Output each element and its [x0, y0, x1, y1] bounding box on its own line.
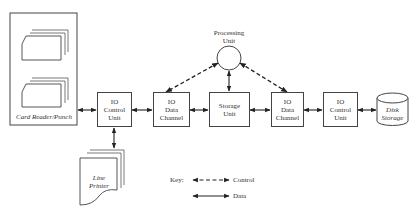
io-data-channel-2-label: IO: [284, 98, 291, 106]
card-reader-icon: [10, 13, 77, 125]
legend-control-label: Control: [233, 176, 273, 184]
disk-storage-label-line2: Storage: [377, 114, 408, 122]
io-control-unit-2-label: Unit: [334, 114, 346, 122]
io-data-channel-1-label: Data: [165, 106, 178, 114]
disk-storage-label: Disk Storage: [377, 106, 408, 122]
io-data-channel-2-label: Channel: [276, 114, 299, 122]
line-printer-label: Line Printer: [82, 174, 116, 190]
io-control-unit-2: IO Control Unit: [323, 92, 358, 127]
processing-unit-circle: [217, 46, 241, 70]
processing-unit-label-line2: Unit: [204, 37, 254, 45]
io-data-channel-2-label: Data: [281, 106, 294, 114]
storage-unit-label: Storage: [219, 102, 240, 110]
io-control-unit-1: IO Control Unit: [97, 92, 132, 127]
storage-unit: Storage Unit: [209, 92, 250, 127]
disk-storage-label-line1: Disk: [377, 106, 408, 114]
storage-unit-label: Unit: [223, 110, 235, 118]
legend-arrows: [193, 180, 229, 196]
io-control-unit-2-label: IO: [337, 98, 344, 106]
card-reader-label: Card Reader/Punch: [12, 113, 76, 121]
io-control-unit-1-label: Unit: [108, 114, 120, 122]
io-data-channel-1-label: Channel: [160, 114, 183, 122]
processing-unit-label: Processing Unit: [204, 29, 254, 45]
legend-title: Key:: [170, 176, 190, 184]
io-control-unit-1-label: Control: [104, 106, 125, 114]
io-control-unit-1-label: IO: [111, 98, 118, 106]
processing-unit-label-line1: Processing: [204, 29, 254, 37]
io-data-channel-1: IO Data Channel: [153, 92, 190, 127]
io-data-channel-2: IO Data Channel: [271, 92, 304, 127]
io-control-unit-2-label: Control: [330, 106, 351, 114]
io-data-channel-1-label: IO: [168, 98, 175, 106]
legend-data-label: Data: [233, 192, 273, 200]
